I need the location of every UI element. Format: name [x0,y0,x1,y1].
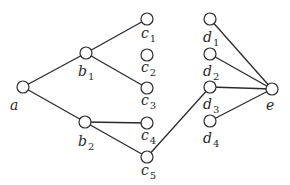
node-b2 [79,116,91,128]
node-label-c4: c4 [141,127,156,146]
node-label-d3: d3 [203,96,219,115]
edge-b2-c4 [85,122,147,123]
node-c1 [141,13,153,25]
node-d2 [204,48,216,60]
node-label-subscript: 4 [150,135,156,146]
node-label-c3: c3 [141,92,156,111]
node-label-c2: c2 [141,59,156,78]
node-label-c5: c5 [141,162,156,181]
node-b1 [80,47,92,59]
node-label-subscript: 1 [150,33,156,44]
node-label-subscript: 4 [213,138,219,149]
node-label-subscript: 5 [150,170,156,181]
node-label-b1: b1 [78,63,94,82]
node-label-c1: c1 [141,25,156,44]
node-a [17,81,29,93]
node-label-d1: d1 [203,29,219,48]
node-d3 [204,81,216,93]
node-label-subscript: 2 [150,67,156,78]
edge-c5-d3 [147,87,210,157]
node-label-subscript: 3 [150,100,156,111]
node-e [266,83,278,95]
node-label-a: a [10,97,18,113]
edge-a-b1 [23,53,86,87]
graph-diagram: ab1b2c1c2c3c4c5d1d2d3d4e [0,0,290,185]
node-label-d4: d4 [203,130,219,149]
edge-a-b2 [23,87,85,122]
edge-b1-c3 [86,53,147,88]
node-d1 [204,13,216,25]
node-label-subscript: 3 [213,104,219,115]
node-label-d2: d2 [203,63,219,82]
node-d4 [204,115,216,127]
node-label-subscript: 2 [213,71,219,82]
edge-b1-c1 [86,19,147,53]
node-label-subscript: 1 [213,37,219,48]
node-label-subscript: 2 [88,141,94,152]
node-label-subscript: 1 [88,71,94,82]
node-label-b2: b2 [78,133,94,152]
edge-d3-e [210,87,272,89]
node-label-e: e [266,97,274,113]
